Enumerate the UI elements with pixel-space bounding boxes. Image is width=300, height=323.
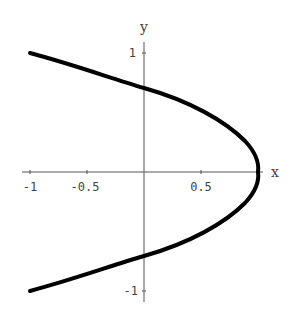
y-axis-label: y: [139, 19, 148, 35]
parabola-plot: -1 -0.5 0.5 1 -1 x y: [0, 0, 300, 323]
x-tick-label-05: 0.5: [190, 180, 212, 194]
y-tick-label-neg1: -1: [124, 284, 138, 298]
y-tick-label-1: 1: [129, 46, 136, 60]
x-tick-label-neg05: -0.5: [71, 180, 100, 194]
x-axis-label: x: [271, 164, 279, 180]
x-tick-label-neg1: -1: [23, 180, 37, 194]
